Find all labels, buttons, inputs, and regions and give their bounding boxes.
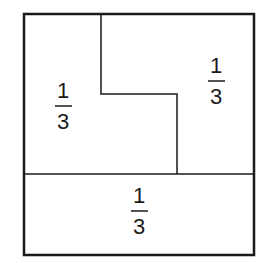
left-fraction: 1 3 <box>55 78 72 134</box>
left-numerator: 1 <box>57 78 69 103</box>
bottom-fraction: 1 3 <box>131 183 148 239</box>
partition-diagram: 1 3 1 3 1 3 <box>0 0 268 263</box>
step-divider <box>101 14 177 174</box>
right-fraction: 1 3 <box>208 53 225 109</box>
right-numerator: 1 <box>210 53 222 78</box>
left-denominator: 3 <box>57 109 69 134</box>
right-denominator: 3 <box>210 84 222 109</box>
bottom-numerator: 1 <box>133 183 145 208</box>
bottom-denominator: 3 <box>133 214 145 239</box>
